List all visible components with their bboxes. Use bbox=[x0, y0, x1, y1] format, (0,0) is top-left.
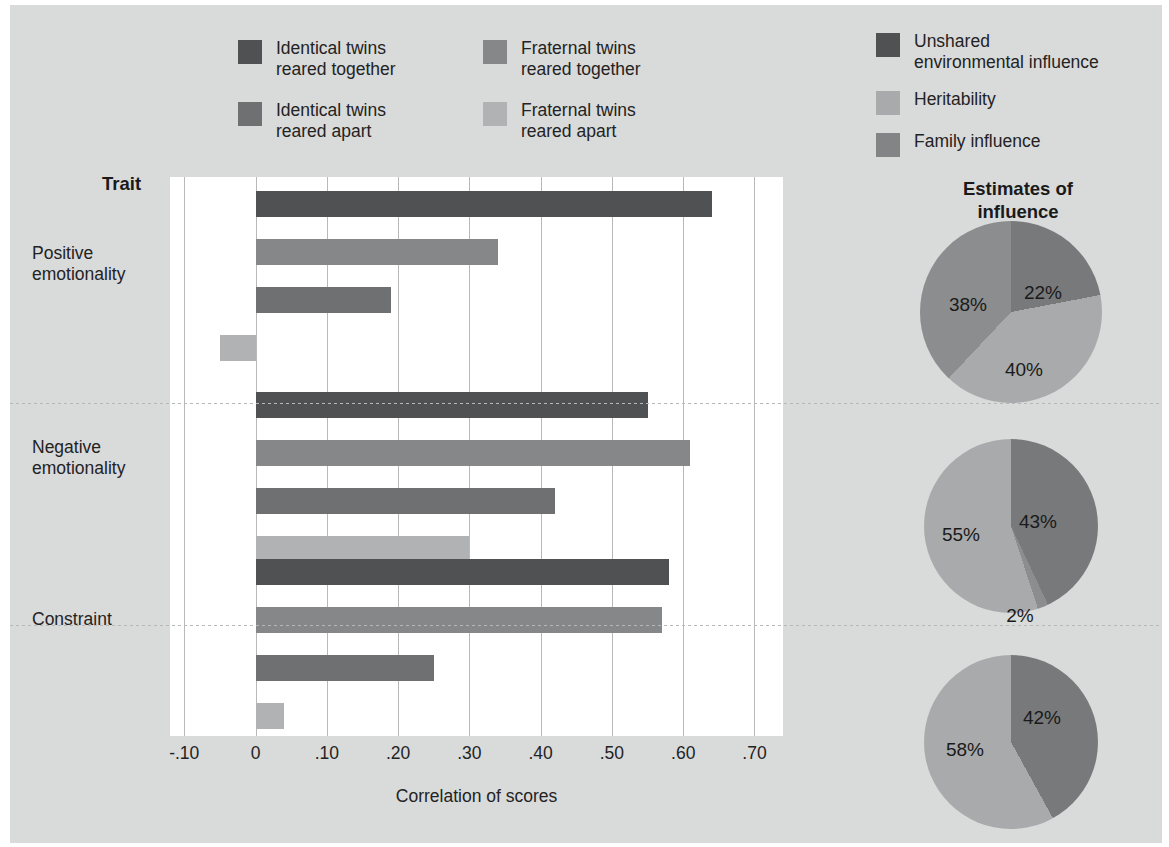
trait-label: Constraint bbox=[32, 609, 160, 630]
legend-label: Heritability bbox=[914, 89, 996, 110]
x-tick-label: .20 bbox=[386, 743, 410, 764]
bar bbox=[256, 239, 498, 265]
legend-swatch-icon bbox=[238, 40, 262, 64]
pie-slice-label: 40% bbox=[1005, 359, 1043, 381]
pie-slice-label: 22% bbox=[1024, 282, 1062, 304]
legend-label: Unshared environmental influence bbox=[914, 31, 1099, 73]
section-divider bbox=[10, 403, 1162, 404]
legend-item-family-influence: Family influence bbox=[876, 131, 1161, 157]
bar bbox=[256, 488, 555, 514]
legend-swatch-icon bbox=[876, 133, 900, 157]
pie-slice-label: 38% bbox=[949, 294, 987, 316]
legend-item-fraternal-apart: Fraternal twins reared apart bbox=[483, 100, 658, 162]
legend-swatch-icon bbox=[876, 91, 900, 115]
pie-slice-label: 2% bbox=[1006, 605, 1033, 627]
bar bbox=[256, 655, 434, 681]
bar-chart-plot-area bbox=[170, 177, 783, 736]
pie-slice-label: 43% bbox=[1019, 511, 1057, 533]
gridline bbox=[754, 177, 755, 736]
x-tick-label: .30 bbox=[457, 743, 481, 764]
bar bbox=[220, 335, 256, 361]
x-tick-label: .50 bbox=[600, 743, 624, 764]
legend-label: Fraternal twins reared together bbox=[521, 38, 641, 80]
legend-label: Family influence bbox=[914, 131, 1040, 152]
legend-item-heritability: Heritability bbox=[876, 89, 1161, 115]
legend-item-fraternal-together: Fraternal twins reared together bbox=[483, 38, 658, 100]
bar bbox=[256, 559, 669, 585]
x-tick-label: .10 bbox=[315, 743, 339, 764]
trait-axis-header: Trait bbox=[102, 173, 141, 195]
gridline bbox=[184, 177, 185, 736]
legend-label: Identical twins reared apart bbox=[276, 100, 386, 142]
pie-chart-legend: Unshared environmental influence Heritab… bbox=[876, 31, 1161, 173]
bar bbox=[256, 287, 391, 313]
legend-swatch-icon bbox=[483, 102, 507, 126]
bar bbox=[256, 440, 691, 466]
legend-swatch-icon bbox=[483, 40, 507, 64]
x-tick-label: .70 bbox=[742, 743, 766, 764]
legend-item-unshared-environment: Unshared environmental influence bbox=[876, 31, 1161, 73]
figure-panel: Identical twins reared together Fraterna… bbox=[10, 5, 1162, 843]
bar-chart-legend: Identical twins reared together Fraterna… bbox=[238, 38, 658, 162]
legend-swatch-icon bbox=[238, 102, 262, 126]
pie-slice-label: 58% bbox=[946, 739, 984, 761]
x-tick-label: .60 bbox=[671, 743, 695, 764]
legend-item-identical-apart: Identical twins reared apart bbox=[238, 100, 483, 162]
legend-label: Identical twins reared together bbox=[276, 38, 396, 80]
bar bbox=[256, 191, 712, 217]
pie-slice-label: 42% bbox=[1023, 707, 1061, 729]
x-tick-label: -.10 bbox=[169, 743, 199, 764]
x-tick-label: 0 bbox=[251, 743, 261, 764]
legend-item-identical-together: Identical twins reared together bbox=[238, 38, 483, 100]
section-divider bbox=[10, 625, 1162, 626]
x-axis-label: Correlation of scores bbox=[170, 786, 783, 807]
trait-label: Positive emotionality bbox=[32, 243, 160, 285]
trait-label: Negative emotionality bbox=[32, 437, 160, 479]
legend-label: Fraternal twins reared apart bbox=[521, 100, 636, 142]
pies-title: Estimates of influence bbox=[903, 177, 1133, 223]
x-tick-label: .40 bbox=[528, 743, 552, 764]
bar bbox=[256, 392, 648, 418]
bar bbox=[256, 607, 662, 633]
legend-swatch-icon bbox=[876, 33, 900, 57]
pie-slice-label: 55% bbox=[942, 524, 980, 546]
bar bbox=[256, 703, 285, 729]
